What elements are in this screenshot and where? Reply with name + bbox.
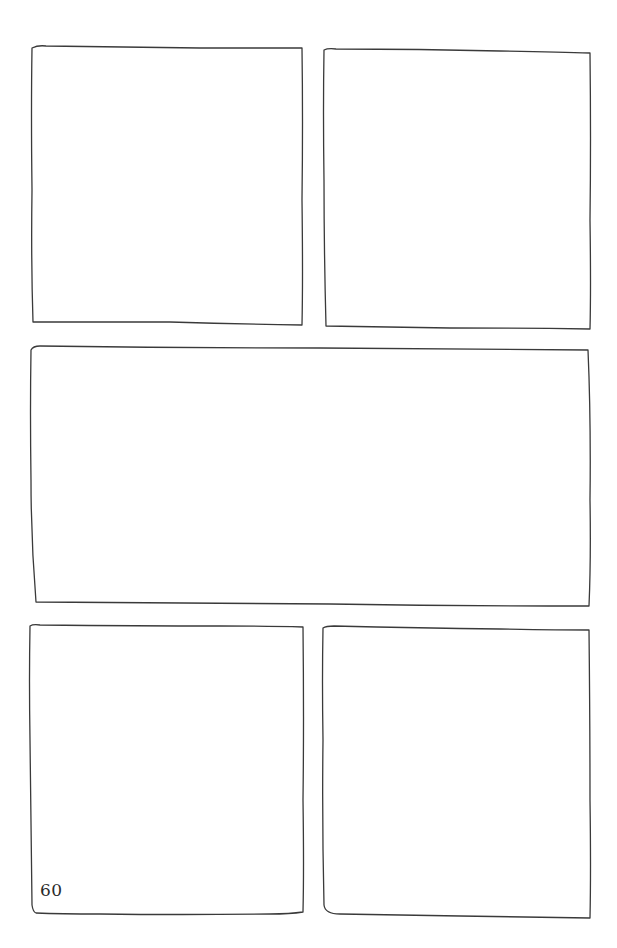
panel-4: [29, 624, 304, 914]
page-number: 60: [40, 880, 63, 900]
panel-5: [322, 626, 591, 918]
panel-3: [30, 346, 591, 606]
panel-1: [31, 47, 303, 326]
comic-page-template: 60: [0, 0, 617, 948]
panel-2: [323, 49, 591, 329]
